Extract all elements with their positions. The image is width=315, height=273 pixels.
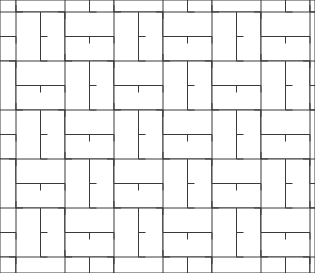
brick-pattern-figure: [0, 0, 315, 273]
brick: [261, 257, 286, 273]
brick: [310, 257, 315, 273]
brick: [261, 208, 315, 233]
brick: [310, 0, 315, 12]
brick: [286, 257, 311, 273]
brick: [261, 12, 315, 37]
brick: [310, 184, 315, 209]
brick: [188, 257, 213, 273]
brick: [310, 159, 315, 184]
brick: [261, 110, 315, 135]
brick: [0, 257, 16, 273]
brick: [310, 86, 315, 111]
brick: [310, 61, 315, 86]
brick: [90, 257, 115, 273]
brick: [261, 135, 315, 160]
brick: [65, 257, 90, 273]
brick: [261, 233, 315, 258]
brick-pattern-canvas: [0, 0, 315, 273]
brick: [261, 37, 315, 62]
brick: [163, 257, 188, 273]
